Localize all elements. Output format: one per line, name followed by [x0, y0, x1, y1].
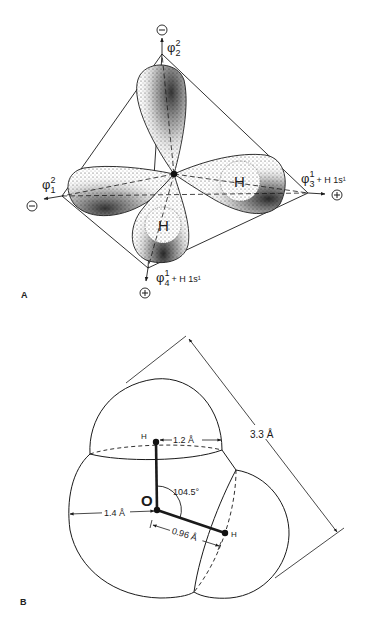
- panel-label-b: B: [20, 597, 27, 607]
- oxygen-nucleus: [171, 171, 177, 177]
- panel-a-tetrahedral-orbitals: H H: [27, 25, 346, 298]
- water-molecule-figure: H H: [0, 0, 372, 619]
- o-radius-label: 1.4 Å: [104, 508, 125, 518]
- sign-plus-phi4: [140, 288, 150, 298]
- hydrogen-top-label: H: [141, 432, 147, 441]
- sign-minus-phi2: [157, 25, 167, 35]
- extension-line-top: [126, 336, 186, 383]
- bond-length-label: 0.96 Å: [171, 526, 199, 543]
- oxygen-atom: [154, 507, 160, 513]
- hydrogen-right-label: H: [231, 530, 237, 539]
- bond-angle-label: 104.5°: [173, 487, 200, 497]
- hydrogen-atom-top: [153, 439, 159, 445]
- h-radius-label: 1.2 Å: [173, 435, 194, 445]
- label-phi2: φ22: [167, 38, 180, 58]
- label-phi3: φ31+ H 1s¹: [301, 169, 346, 189]
- axis-arrow-phi4: [146, 268, 148, 281]
- extension-line-bottom: [275, 528, 344, 578]
- orbital-lobe-phi3: H: [174, 154, 285, 213]
- orbital-lobe-phi2: [137, 65, 186, 174]
- oxygen-label: O: [141, 492, 153, 509]
- oh-bond-top: [156, 442, 157, 510]
- sign-plus-phi3: [332, 190, 342, 200]
- label-phi4: φ41+ H 1s¹: [156, 268, 201, 288]
- hydrogen-label-right: H: [234, 173, 245, 190]
- hydrogen-atom-right: [222, 530, 228, 536]
- axis-arrow-phi3: [308, 193, 325, 194]
- axis-arrow-phi1: [44, 196, 62, 199]
- hydrogen-label-bottom: H: [158, 217, 169, 234]
- panel-label-a: A: [21, 290, 28, 300]
- total-length-label: 3.3 Å: [250, 428, 274, 440]
- panel-b-water-dimensions: O H H 104.5° 1.2 Å 1.4 Å 0.96 Å 3.3 Å: [69, 336, 344, 598]
- label-phi1: φ12: [42, 175, 55, 195]
- sign-minus-phi1: [27, 201, 37, 211]
